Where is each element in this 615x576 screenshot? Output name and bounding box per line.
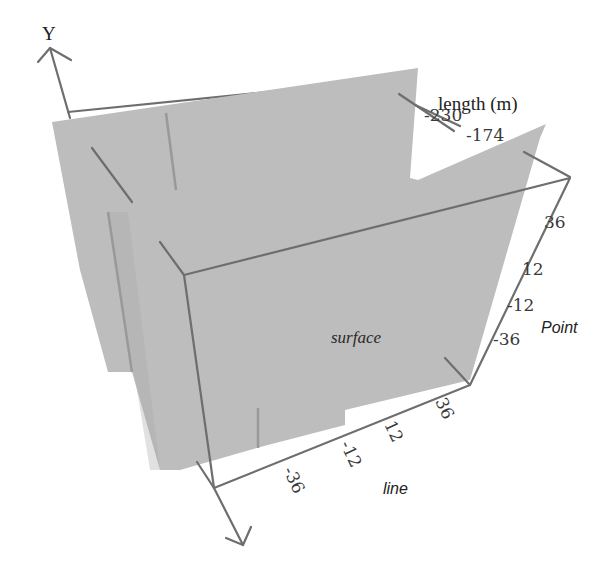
point-tick-2: -12	[507, 295, 534, 315]
length-tick-1: -174	[466, 125, 504, 145]
y-axis-label: Y	[42, 23, 56, 44]
line-tick-0: -36	[279, 463, 309, 496]
point-tick-0: 36	[544, 212, 566, 232]
length-axis: length (m) -230 -174	[424, 93, 518, 145]
3d-surface-diagram: Y length (m) -230 -174 36 12 -12 -36 Poi…	[0, 0, 615, 576]
point-tick-1: 12	[522, 259, 544, 279]
line-tick-2: 12	[380, 417, 407, 445]
line-tick-1: -12	[336, 437, 366, 470]
point-tick-3: -36	[493, 329, 520, 349]
line-axis-arrow	[214, 488, 251, 545]
y-axis: Y	[38, 23, 71, 118]
length-tick-0: -230	[424, 105, 462, 125]
diagram-canvas: Y length (m) -230 -174 36 12 -12 -36 Poi…	[0, 0, 615, 576]
point-axis-label: Point	[541, 319, 578, 336]
line-axis-arrow-line	[214, 488, 243, 545]
surface-label: surface	[331, 328, 382, 347]
line-axis-label: line	[383, 480, 408, 497]
